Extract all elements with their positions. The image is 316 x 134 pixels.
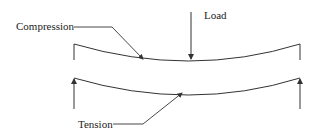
beam-bottom-surface [74, 78, 300, 95]
beam-top-surface [74, 44, 300, 61]
compression-label: Compression [16, 21, 74, 32]
beam-diagram: Compression Load Tension [0, 0, 316, 134]
tension-leader [113, 93, 182, 124]
compression-leader [74, 27, 143, 59]
load-label: Load [204, 10, 227, 21]
tension-label: Tension [78, 119, 113, 130]
